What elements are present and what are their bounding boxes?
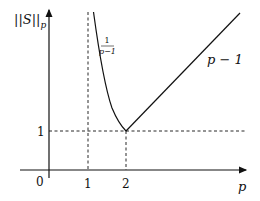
- x-tick-1: 1: [84, 177, 92, 191]
- label-p-minus-1: p − 1: [207, 52, 243, 67]
- chart: ||S||p p 0 1 2 1 1 p−1 p − 1: [0, 0, 260, 201]
- svg-text:1: 1: [104, 36, 109, 45]
- y-tick-1: 1: [37, 125, 45, 139]
- label-1-over-p-minus-1: 1 p−1: [99, 36, 116, 56]
- curve-1-over-p-minus-1: [94, 12, 127, 131]
- x-tick-2: 2: [122, 177, 130, 191]
- line-p-minus-1: [126, 13, 240, 131]
- x-axis-label: p: [238, 179, 247, 194]
- y-axis-label: ||S||p: [14, 12, 46, 30]
- svg-text:p−1: p−1: [99, 47, 116, 56]
- x-tick-0: 0: [36, 175, 44, 189]
